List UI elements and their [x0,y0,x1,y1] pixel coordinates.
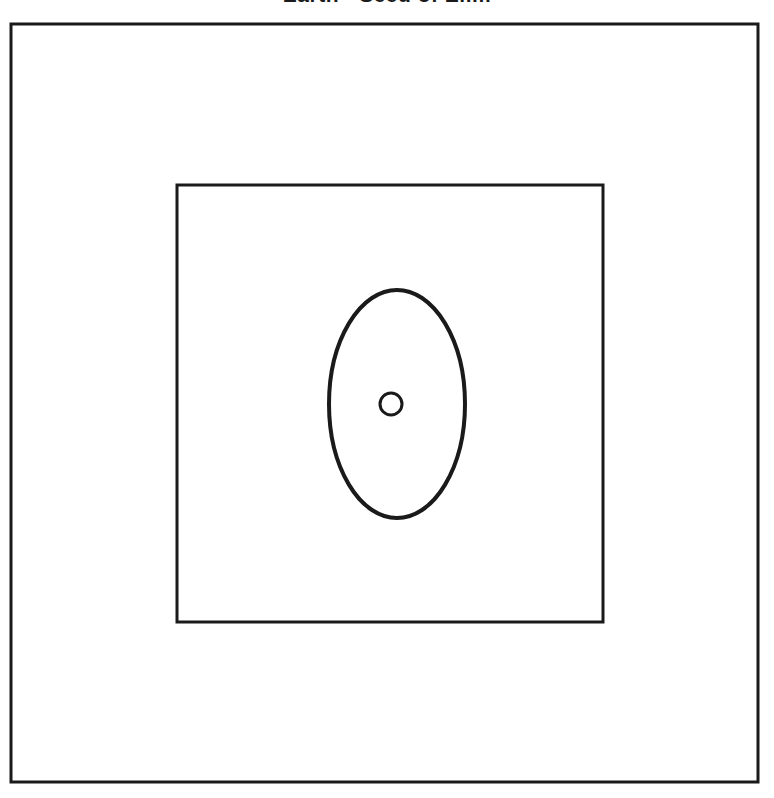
inner-square-rect [177,185,603,622]
diagram-vector-layer [0,0,774,798]
center-dot-circle [380,393,402,415]
central-ellipse-shape [329,290,465,518]
outer-frame-rect [11,24,758,782]
diagram-canvas: Earth - Seed of Elim [0,0,774,798]
